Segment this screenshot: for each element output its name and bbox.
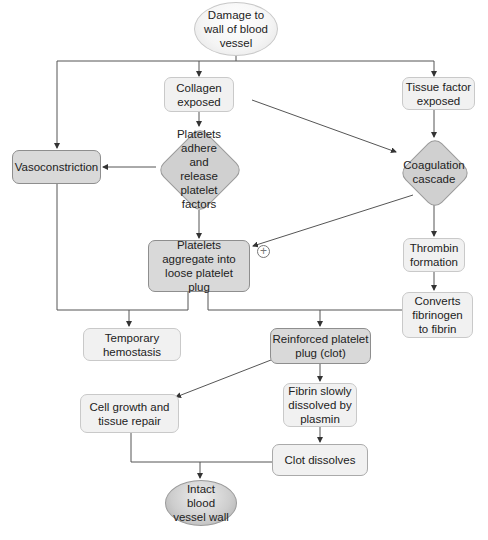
node-platelets-adhere: Platelets adhere and release platelet fa… bbox=[156, 126, 242, 212]
node-tissue-factor-exposed: Tissue factor exposed bbox=[402, 77, 475, 110]
node-converts-fibrinogen: Converts fibrinogen to fibrin bbox=[402, 292, 473, 338]
diamond-text-wrap: Coagulation cascade bbox=[396, 137, 472, 207]
node-label: Reinforced platelet plug (clot) bbox=[272, 332, 370, 360]
diamond-text-wrap: Platelets adhere and release platelet fa… bbox=[156, 126, 242, 212]
hemostasis-diagram: Damage to wall of blood vessel Collagen … bbox=[0, 0, 488, 540]
node-cell-growth-tissue-repair: Cell growth and tissue repair bbox=[80, 394, 179, 433]
node-label: Vasoconstriction bbox=[15, 160, 99, 174]
node-fibrin-dissolved-by-plasmin: Fibrin slowly dissolved by plasmin bbox=[283, 383, 357, 427]
node-label: Intact blood vessel wall bbox=[172, 482, 230, 524]
node-label: Collagen exposed bbox=[172, 81, 226, 109]
node-label: Thrombin formation bbox=[406, 241, 462, 269]
node-label: Cell growth and tissue repair bbox=[88, 400, 172, 428]
node-temporary-hemostasis: Temporary hemostasis bbox=[83, 328, 181, 361]
node-label: Platelets aggregate into loose platelet … bbox=[153, 238, 245, 294]
node-label: Platelets adhere and release platelet fa… bbox=[170, 127, 228, 211]
node-intact-blood-vessel-wall: Intact blood vessel wall bbox=[165, 480, 237, 526]
node-label: Damage to wall of blood vessel bbox=[204, 8, 268, 50]
plus-symbol: + bbox=[260, 244, 267, 258]
positive-feedback-icon: + bbox=[257, 245, 270, 258]
node-label: Converts fibrinogen to fibrin bbox=[409, 294, 467, 336]
node-label: Tissue factor exposed bbox=[406, 80, 472, 108]
node-label: Temporary hemostasis bbox=[92, 331, 172, 359]
node-label: Fibrin slowly dissolved by plasmin bbox=[287, 384, 353, 426]
node-label: Clot dissolves bbox=[285, 453, 356, 467]
node-thrombin-formation: Thrombin formation bbox=[403, 238, 465, 272]
node-vasoconstriction: Vasoconstriction bbox=[12, 150, 101, 184]
node-reinforced-platelet-plug: Reinforced platelet plug (clot) bbox=[270, 328, 371, 364]
node-coagulation-cascade: Coagulation cascade bbox=[396, 137, 472, 207]
node-platelets-aggregate: Platelets aggregate into loose platelet … bbox=[148, 240, 250, 292]
node-clot-dissolves: Clot dissolves bbox=[272, 444, 368, 476]
node-damage-to-vessel-wall: Damage to wall of blood vessel bbox=[194, 2, 278, 56]
node-collagen-exposed: Collagen exposed bbox=[164, 77, 234, 112]
node-label: Coagulation cascade bbox=[402, 158, 466, 186]
